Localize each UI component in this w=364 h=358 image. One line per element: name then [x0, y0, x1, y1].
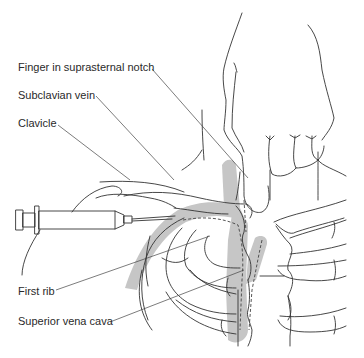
pointing-hand — [182, 13, 346, 212]
label-finger-in-suprasternal-notch: Finger in suprasternal notch — [18, 61, 154, 73]
anatomy-illustration — [0, 0, 364, 358]
subclavian-catheterization-diagram: Finger in suprasternal notch Subclavian … — [0, 0, 364, 358]
right-ribs — [274, 200, 346, 334]
label-subclavian-vein: Subclavian vein — [18, 89, 95, 101]
label-clavicle: Clavicle — [18, 117, 57, 129]
leader-lines — [56, 69, 248, 322]
label-superior-vena-cava: Superior vena cava — [18, 315, 113, 327]
label-first-rib: First rib — [18, 285, 55, 297]
